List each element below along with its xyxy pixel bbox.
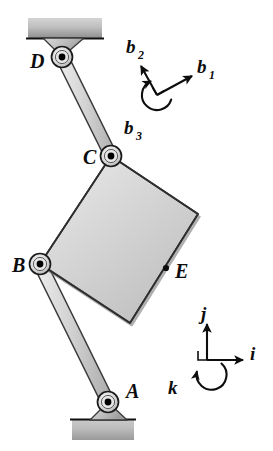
b3-curved-arrow: [142, 82, 171, 111]
label-vector-j: j: [198, 303, 207, 324]
joint-A: [98, 392, 119, 413]
label-b3-subscript: 3: [135, 129, 142, 143]
ground-bottom: [70, 420, 136, 441]
label-joint-A: A: [124, 380, 139, 402]
joint-D: [52, 47, 73, 68]
label-vector-i: i: [250, 343, 256, 364]
label-b1-base: b: [197, 56, 207, 77]
label-joint-D: D: [29, 50, 44, 72]
k-curved-arrow: [197, 364, 227, 390]
joint-B: [30, 254, 51, 275]
label-vector-b2: b 2: [126, 36, 144, 62]
link-D-C: [56, 55, 117, 158]
b1-arrow: [157, 76, 192, 95]
joint-C: [101, 146, 122, 167]
label-point-E: E: [174, 260, 188, 282]
label-b3-base: b: [124, 117, 134, 138]
label-b1-subscript: 1: [209, 68, 215, 82]
label-vector-k: k: [168, 377, 178, 398]
label-joint-B: B: [11, 254, 25, 276]
body-frame-triad: [141, 66, 192, 110]
figure-canvas: A B C D E b 1 b 2 b 3 i j k: [0, 0, 273, 451]
label-b2-base: b: [126, 36, 136, 57]
label-vector-b3: b 3: [124, 117, 142, 143]
inertial-frame-triad: [197, 324, 243, 390]
label-vector-b1: b 1: [197, 56, 215, 82]
point-E-marker: [163, 265, 169, 271]
mechanism-figure: A B C D E b 1 b 2 b 3 i j k: [0, 0, 273, 451]
ground-top: [26, 18, 104, 39]
label-b2-subscript: 2: [137, 48, 144, 62]
label-joint-C: C: [83, 146, 97, 168]
